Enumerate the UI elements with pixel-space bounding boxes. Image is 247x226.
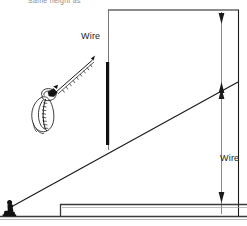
raised-platform (60, 204, 247, 216)
vertical-mast (106, 62, 109, 145)
kneeling-person-holding-wire (3, 200, 17, 216)
diagram-canvas (0, 0, 247, 226)
label-wire-upper: Wire (81, 31, 100, 41)
diagram-caption: Same height as (28, 0, 81, 4)
wire-height-diagram: Same height as Wire Wire (0, 0, 247, 226)
bird-on-wire-sketch (32, 56, 95, 134)
label-wire-lower: Wire (220, 153, 239, 163)
ground-line (0, 217, 247, 220)
